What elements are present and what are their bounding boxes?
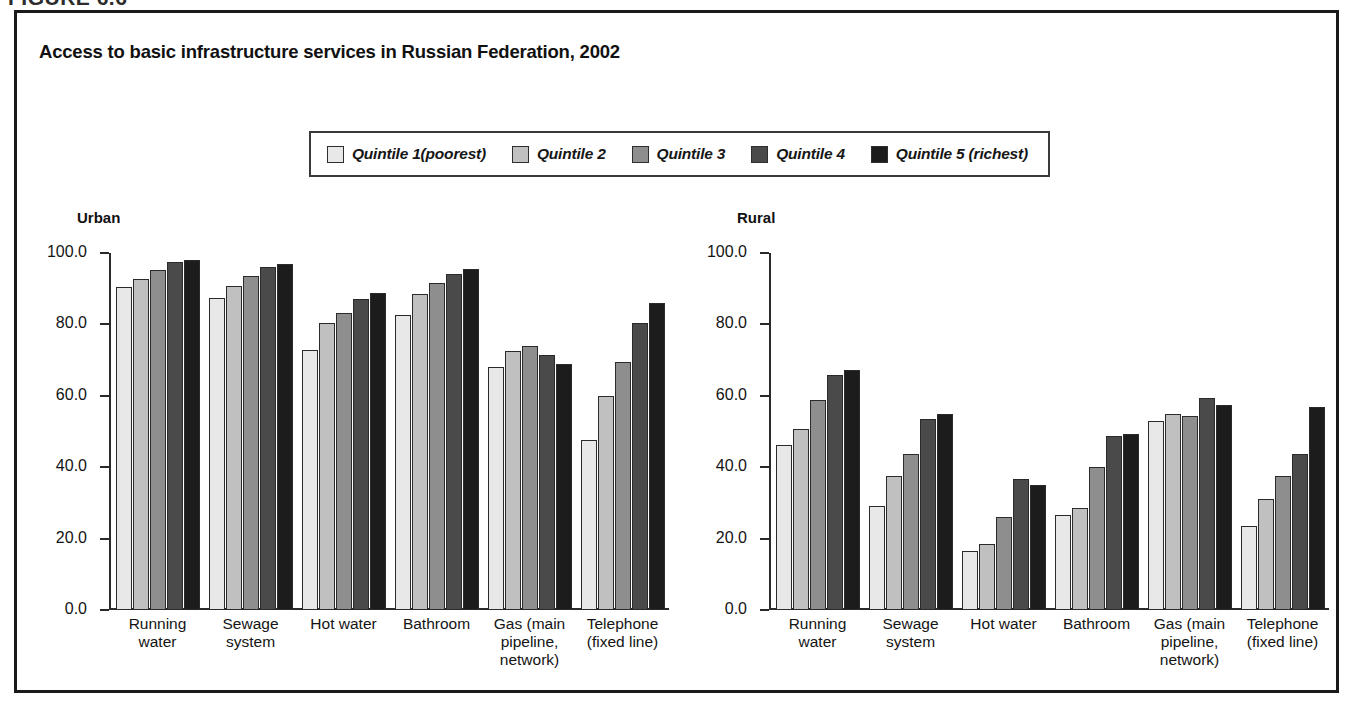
bar (598, 396, 614, 610)
y-axis-tick-label: 60.0 (716, 386, 747, 404)
bar (979, 544, 995, 610)
legend-item-quintile-2: Quintile 2 (512, 145, 606, 163)
bar (827, 375, 843, 610)
bar (260, 267, 276, 610)
legend-swatch-icon (871, 146, 888, 163)
bar-group (483, 253, 576, 610)
bar (1148, 421, 1164, 610)
bar (209, 298, 225, 610)
bar (353, 299, 369, 610)
bar (996, 517, 1012, 610)
bar (522, 346, 538, 610)
bar (184, 260, 200, 610)
bar (1216, 405, 1232, 610)
y-axis-tick-label: 20.0 (716, 529, 747, 547)
bar (1165, 414, 1181, 610)
bar (133, 279, 149, 610)
bar (243, 276, 259, 611)
bar (1106, 436, 1122, 610)
bar (886, 476, 902, 610)
bar (336, 313, 352, 610)
bar (1030, 485, 1046, 610)
legend-swatch-icon (327, 146, 344, 163)
bar (556, 364, 572, 610)
bar (903, 454, 919, 610)
bar (226, 286, 242, 610)
bar (632, 323, 648, 610)
y-axis-tick: 100.0 (760, 252, 769, 254)
bar (1013, 479, 1029, 610)
bar (962, 551, 978, 610)
y-axis-tick-label: 0.0 (725, 600, 747, 618)
y-axis-tick: 80.0 (760, 323, 769, 325)
bar (1275, 476, 1291, 610)
bar-group (864, 253, 957, 610)
x-axis-category-label: Telephone (fixed line) (576, 615, 669, 669)
plot-area-rural: 0.020.040.060.080.0100.0 Running waterSe… (707, 241, 1347, 703)
chart-legend: Quintile 1(poorest)Quintile 2Quintile 3Q… (309, 131, 1050, 177)
y-axis-tick: 40.0 (100, 466, 109, 468)
x-axis-category-label: Hot water (297, 615, 390, 669)
chart-title: Access to basic infrastructure services … (39, 41, 620, 63)
figure-frame: Access to basic infrastructure services … (14, 10, 1339, 693)
y-axis-tick-label: 100.0 (47, 243, 87, 261)
bar-group (1236, 253, 1329, 610)
bar (1258, 499, 1274, 610)
legend-item-label: Quintile 5 (richest) (896, 145, 1028, 163)
category-labels-rural: Running waterSewage systemHot waterBathr… (771, 615, 1329, 669)
bar-group (576, 253, 669, 610)
bar (446, 274, 462, 610)
bar (277, 264, 293, 610)
legend-item-quintile-4: Quintile 4 (751, 145, 845, 163)
bar (412, 294, 428, 610)
bar (167, 262, 183, 610)
bar (488, 367, 504, 610)
bar (1182, 416, 1198, 610)
bar (539, 355, 555, 610)
bar-group (204, 253, 297, 610)
x-axis-category-label: Sewage system (204, 615, 297, 669)
bar (395, 315, 411, 610)
y-axis-tick-label: 100.0 (707, 243, 747, 261)
bar (370, 293, 386, 610)
y-axis-tick: 20.0 (760, 538, 769, 540)
y-axis-tick: 0.0 (760, 609, 769, 611)
bar-group (771, 253, 864, 610)
bar (429, 283, 445, 610)
y-axis-tick: 60.0 (100, 395, 109, 397)
category-labels-urban: Running waterSewage systemHot waterBathr… (111, 615, 669, 669)
y-axis-tick: 0.0 (100, 609, 109, 611)
y-axis-tick-label: 0.0 (65, 600, 87, 618)
panel-title-urban: Urban (77, 209, 120, 226)
legend-item-label: Quintile 2 (537, 145, 606, 163)
bar (1309, 407, 1325, 610)
y-axis-tick-label: 60.0 (56, 386, 87, 404)
legend-item-quintile-1: Quintile 1(poorest) (327, 145, 486, 163)
y-axis-tick-label: 40.0 (56, 457, 87, 475)
bar (302, 350, 318, 610)
bar (793, 429, 809, 610)
axis-area-urban: 0.020.040.060.080.0100.0 (109, 253, 669, 610)
legend-item-label: Quintile 4 (776, 145, 845, 163)
bar (1123, 434, 1139, 610)
bar (1072, 508, 1088, 610)
bar (1241, 526, 1257, 610)
bar (776, 445, 792, 610)
bar (1199, 398, 1215, 610)
legend-swatch-icon (751, 146, 768, 163)
x-axis-category-label: Gas (main pipeline, network) (1143, 615, 1236, 669)
bar (581, 440, 597, 610)
y-axis-tick: 20.0 (100, 538, 109, 540)
y-axis-tick-label: 80.0 (56, 314, 87, 332)
y-axis-tick-label: 20.0 (56, 529, 87, 547)
legend-item-quintile-3: Quintile 3 (632, 145, 726, 163)
x-axis-category-label: Running water (111, 615, 204, 669)
legend-swatch-icon (512, 146, 529, 163)
bar-group (1050, 253, 1143, 610)
legend-swatch-icon (632, 146, 649, 163)
bar (649, 303, 665, 610)
y-axis-tick: 60.0 (760, 395, 769, 397)
bar (810, 400, 826, 610)
bar (150, 270, 166, 610)
bar (844, 370, 860, 610)
